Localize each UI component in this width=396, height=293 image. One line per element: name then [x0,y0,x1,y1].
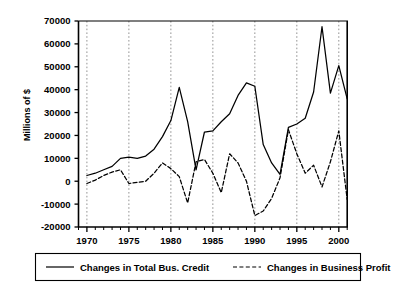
x-tick-label-1995: 1995 [286,235,308,246]
line-chart: 700006000050000400003000020000100000-100… [0,0,396,293]
y-tick-label-70000: 70000 [44,15,70,26]
legend-label-business-profit: Changes in Business Profit [267,262,391,273]
y-tick-label-30000: 30000 [44,107,70,118]
chart-figure: 700006000050000400003000020000100000-100… [0,0,396,293]
x-tick-label-1990: 1990 [244,235,265,246]
y-tick-label-60000: 60000 [44,38,70,49]
x-tick-label-1985: 1985 [202,235,224,246]
y-tick-label--10000: -10000 [41,199,71,210]
y-axis-title: Millions of $ [22,89,32,141]
y-tick-label-20000: 20000 [44,130,70,141]
y-tick-label-0: 0 [65,176,70,187]
x-tick-label-1970: 1970 [76,235,97,246]
x-tick-label-1980: 1980 [160,235,181,246]
legend-label-total-bus-credit: Changes in Total Bus. Credit [80,262,210,273]
y-tick-label-10000: 10000 [44,153,70,164]
chart-legend: Changes in Total Bus. Credit Changes in … [36,254,392,281]
x-tick-label-1975: 1975 [118,235,140,246]
y-tick-label-50000: 50000 [44,61,70,72]
x-tick-label-2000: 2000 [328,235,349,246]
y-tick-label-40000: 40000 [44,84,70,95]
y-tick-label--20000: -20000 [41,221,71,232]
